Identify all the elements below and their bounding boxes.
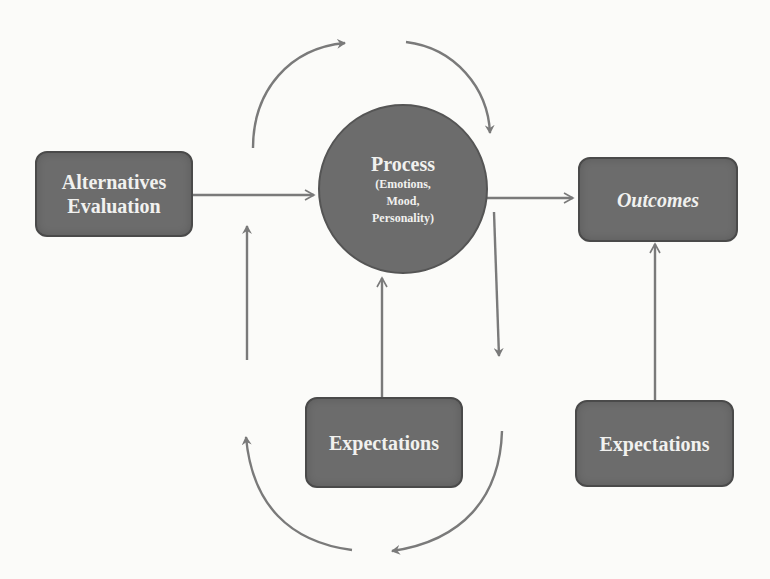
alternatives-label-line1: Alternatives	[62, 170, 166, 194]
expectations-right-label: Expectations	[600, 432, 710, 456]
curve-top-left	[253, 43, 345, 148]
process-sub-emotions: (Emotions,	[375, 176, 431, 193]
alternatives-label-line2: Evaluation	[67, 194, 160, 218]
outcomes-label: Outcomes	[617, 188, 699, 212]
alternatives-evaluation-node: Alternatives Evaluation	[35, 151, 193, 237]
expectations-middle-label: Expectations	[329, 431, 439, 455]
process-sub-mood: Mood,	[387, 193, 420, 210]
process-title: Process	[371, 152, 435, 176]
expectations-right-node: Expectations	[575, 400, 734, 487]
arrow-right-downward	[494, 212, 499, 356]
process-node: Process (Emotions, Mood, Personality)	[318, 104, 488, 274]
expectations-middle-node: Expectations	[305, 397, 463, 488]
process-sub-personality: Personality)	[372, 210, 434, 227]
outcomes-node: Outcomes	[578, 157, 738, 242]
diagram-connectors	[0, 0, 770, 579]
